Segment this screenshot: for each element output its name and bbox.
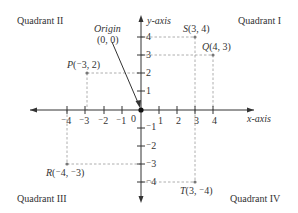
point-r xyxy=(65,162,68,165)
y-tick-p3: 3 xyxy=(146,50,151,60)
origin-pointer-arrow-icon xyxy=(136,100,142,108)
point-p-coords: (⁻3, 2) xyxy=(73,59,100,70)
y-tick-p1: 1 xyxy=(146,86,151,96)
y-tick-n2: ⁻2 xyxy=(146,141,156,151)
point-t xyxy=(193,180,196,183)
y-tick-p4: 4 xyxy=(146,32,151,42)
x-tick-n3: ⁻3 xyxy=(79,116,89,126)
point-q xyxy=(211,53,214,56)
x-axis-arrow-left-icon xyxy=(30,108,37,113)
quadrant-i-label: Quadrant I xyxy=(238,16,281,26)
x-tick-p2: 2 xyxy=(176,116,181,126)
x-tick-p1: 1 xyxy=(158,116,163,126)
y-axis-arrow-up-icon xyxy=(139,15,144,22)
quadrant-ii-label: Quadrant II xyxy=(17,16,63,26)
y-tick-n3: ⁻3 xyxy=(146,159,156,169)
y-tick-n1: ⁻1 xyxy=(146,122,156,132)
x-tick-zero: 0 xyxy=(131,114,136,124)
point-s-coords: (3, 4) xyxy=(188,23,210,34)
y-tick-p2: 2 xyxy=(146,68,151,78)
point-r-label: R(⁻4, ⁻3) xyxy=(46,168,84,178)
point-r-coords: (⁻4, ⁻3) xyxy=(52,167,84,178)
x-axis-label: x-axis xyxy=(247,114,271,124)
x-tick-n1: ⁻1 xyxy=(116,116,126,126)
y-axis-label: y-axis xyxy=(147,16,171,26)
point-s xyxy=(193,35,196,38)
point-p-label: P(⁻3, 2) xyxy=(67,60,100,70)
point-q-label: Q(4, 3) xyxy=(202,42,231,52)
origin-point xyxy=(138,107,143,112)
x-tick-n2: ⁻2 xyxy=(98,116,108,126)
x-tick-p3: 3 xyxy=(194,116,199,126)
origin-title: Origin xyxy=(94,24,121,34)
point-t-label: T(3, ⁻4) xyxy=(180,186,213,196)
origin-pointer-line xyxy=(112,42,139,105)
quadrant-iii-label: Quadrant III xyxy=(17,194,67,204)
x-tick-p4: 4 xyxy=(212,116,217,126)
quadrant-iv-label: Quadrant IV xyxy=(230,194,280,204)
point-s-label: S(3, 4) xyxy=(183,24,210,34)
point-q-coords: (4, 3) xyxy=(209,41,231,52)
y-tick-n4: ⁻4 xyxy=(146,177,156,187)
point-p xyxy=(85,71,88,74)
point-t-coords: (3, ⁻4) xyxy=(186,185,213,196)
origin-coords: (0, 0) xyxy=(97,35,119,45)
x-tick-n4: ⁻4 xyxy=(61,116,71,126)
x-axis-arrow-right-icon xyxy=(247,108,254,113)
y-axis-arrow-down-icon xyxy=(139,196,144,203)
